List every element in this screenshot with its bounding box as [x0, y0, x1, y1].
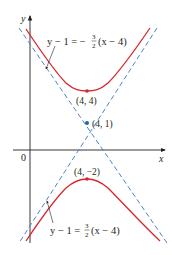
vertex-top-label: (4, 4) — [76, 96, 97, 107]
equation-bottom-numerator: 3 — [85, 222, 89, 230]
equation-top-numerator: 3 — [92, 33, 96, 41]
equation-top-rhs: (x − 4) — [98, 36, 127, 48]
asymptote-positive-slope — [19, 28, 157, 243]
leader-arrow-top — [46, 46, 55, 69]
center-point — [85, 121, 89, 125]
vertex-top-point — [85, 89, 89, 93]
x-axis-label: x — [158, 153, 164, 164]
equation-top: y − 1 = − — [47, 36, 86, 47]
y-axis-label: y — [20, 13, 26, 24]
origin-label: 0 — [21, 152, 26, 163]
center-label: (4, 1) — [92, 119, 113, 130]
plot-canvas: y x 0 y − 1 = − 3 2 (x − 4) (4, 4) (4, 1… — [0, 0, 172, 255]
asymptote-negative-slope — [19, 28, 167, 243]
equation-top-lhs: y − 1 = − — [47, 36, 86, 47]
equation-bottom-rhs: (x − 4) — [91, 225, 120, 237]
equation-bottom-denominator: 2 — [85, 231, 89, 239]
vertex-bottom-label: (4, −2) — [74, 167, 100, 178]
equation-top-denominator: 2 — [92, 42, 96, 50]
equation-bottom-lhs: y − 1 = — [50, 225, 80, 236]
vertex-bottom-point — [85, 177, 89, 181]
hyperbola-upper-branch — [26, 28, 150, 91]
hyperbola-figure: y x 0 y − 1 = − 3 2 (x − 4) (4, 4) (4, 1… — [0, 0, 172, 255]
